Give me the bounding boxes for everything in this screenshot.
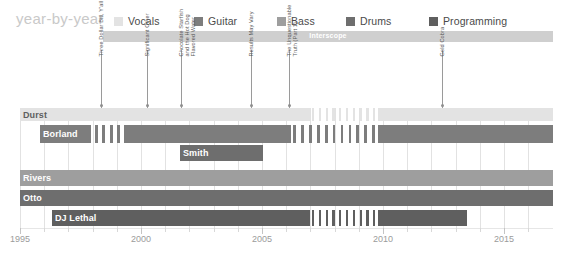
hiatus-stripe bbox=[332, 210, 334, 226]
timeline-segment bbox=[378, 108, 553, 121]
legend-item-programming[interactable]: Programming bbox=[429, 11, 507, 25]
timeline-row-dj-lethal[interactable]: DJ Lethal bbox=[20, 210, 553, 226]
axis-tick-minor bbox=[407, 228, 408, 232]
axis-tick-minor bbox=[93, 228, 94, 232]
album-marker-dot-icon bbox=[250, 104, 253, 107]
album-label: Significant Other bbox=[143, 13, 149, 56]
legend-item-guitar[interactable]: Guitar bbox=[194, 11, 237, 25]
hiatus-stripe bbox=[332, 170, 334, 186]
hiatus-stripe bbox=[366, 108, 368, 121]
hiatus-stripe bbox=[293, 125, 296, 143]
record-label-text: Interscope bbox=[103, 32, 553, 39]
axis-tick-minor bbox=[117, 228, 118, 232]
legend-label: Programming bbox=[443, 15, 507, 27]
timeline-segment bbox=[378, 210, 467, 226]
axis-tick-minor bbox=[238, 228, 239, 232]
legend-swatch-icon bbox=[346, 17, 355, 26]
axis-tick-minor bbox=[480, 228, 481, 232]
hiatus-stripe bbox=[366, 190, 368, 206]
timeline-row-durst[interactable]: Durst bbox=[20, 108, 553, 121]
hiatus-stripe bbox=[346, 210, 348, 226]
timeline-segment bbox=[124, 125, 291, 143]
hiatus-stripe bbox=[360, 108, 362, 121]
timeline-segment bbox=[20, 108, 310, 121]
timeline-row-otto[interactable]: Otto bbox=[20, 190, 553, 206]
plot-area: DurstBorlandSmithRiversOttoDJ Lethal bbox=[20, 108, 553, 228]
hiatus-stripe bbox=[319, 190, 321, 206]
member-name-label: Smith bbox=[183, 148, 209, 158]
axis-tick-minor bbox=[68, 228, 69, 232]
timeline-row-rivers[interactable]: Rivers bbox=[20, 170, 553, 186]
hiatus-stripe bbox=[312, 210, 314, 226]
album-label: Chocolate Starfish bbox=[177, 9, 183, 57]
legend-swatch-icon bbox=[429, 17, 438, 26]
hiatus-stripe bbox=[353, 210, 355, 226]
axis-tick-minor bbox=[310, 228, 311, 232]
hiatus-stripe bbox=[360, 210, 362, 226]
legend-swatch-icon bbox=[114, 17, 123, 26]
legend-label: Drums bbox=[360, 15, 391, 27]
hiatus-stripe bbox=[339, 108, 341, 121]
axis-tick-minor bbox=[528, 228, 529, 232]
album-marker-dot-icon bbox=[180, 104, 183, 107]
hiatus-stripes bbox=[310, 210, 378, 226]
year-by-year-timeline-chart: year-by-year VocalsGuitarBassDrumsProgra… bbox=[0, 0, 561, 254]
hiatus-stripe bbox=[326, 190, 328, 206]
hiatus-stripe bbox=[332, 108, 334, 121]
axis-year-label: 2015 bbox=[494, 234, 514, 244]
hiatus-stripe bbox=[301, 125, 304, 143]
hiatus-stripe bbox=[356, 125, 359, 143]
album-marker-line bbox=[251, 50, 252, 108]
hiatus-stripe bbox=[341, 125, 344, 143]
hiatus-stripe bbox=[309, 125, 312, 143]
x-axis: 19952000200520102015 bbox=[20, 228, 553, 254]
hiatus-stripes bbox=[310, 108, 378, 121]
axis-tick-minor bbox=[335, 228, 336, 232]
timeline-segment bbox=[20, 170, 310, 186]
hiatus-stripe bbox=[372, 125, 375, 143]
legend-item-drums[interactable]: Drums bbox=[346, 11, 391, 25]
hiatus-stripe bbox=[319, 108, 321, 121]
timeline-row-borland[interactable]: Borland bbox=[20, 125, 553, 143]
album-marker-dot-icon bbox=[146, 104, 149, 107]
hiatus-stripe bbox=[373, 170, 375, 186]
album-label: Results May Vary bbox=[247, 11, 253, 56]
axis-tick-minor bbox=[431, 228, 432, 232]
hiatus-stripe bbox=[312, 190, 314, 206]
axis-year-label: 1995 bbox=[10, 234, 30, 244]
timeline-segment bbox=[102, 125, 105, 143]
hiatus-stripe bbox=[360, 190, 362, 206]
record-label-band: Interscope bbox=[103, 31, 553, 42]
member-name-label: DJ Lethal bbox=[55, 213, 96, 223]
timeline-segment bbox=[110, 125, 113, 143]
hiatus-stripe bbox=[346, 190, 348, 206]
album-label: The Unquestionable bbox=[285, 5, 291, 57]
axis-year-label: 2010 bbox=[373, 234, 393, 244]
timeline-segment bbox=[95, 125, 98, 143]
timeline-segment bbox=[117, 125, 120, 143]
hiatus-stripe bbox=[326, 210, 328, 226]
hiatus-stripe bbox=[319, 170, 321, 186]
album-marker-line bbox=[289, 50, 290, 108]
hiatus-stripe bbox=[333, 125, 336, 143]
axis-tick-minor bbox=[456, 228, 457, 232]
hiatus-stripe bbox=[373, 190, 375, 206]
hiatus-stripes bbox=[291, 125, 378, 143]
axis-tick-minor bbox=[44, 228, 45, 232]
axis-tick-minor bbox=[189, 228, 190, 232]
member-name-label: Rivers bbox=[23, 173, 51, 183]
axis-tick-minor bbox=[165, 228, 166, 232]
hiatus-stripe bbox=[373, 108, 375, 121]
hiatus-stripes bbox=[310, 170, 378, 186]
hiatus-stripe bbox=[364, 125, 367, 143]
album-marker-line bbox=[101, 50, 102, 108]
album-marker-line bbox=[442, 50, 443, 108]
album-marker-dot-icon bbox=[100, 104, 103, 107]
hiatus-stripe bbox=[346, 170, 348, 186]
album-marker-dot-icon bbox=[288, 104, 291, 107]
timeline-row-smith[interactable]: Smith bbox=[20, 145, 553, 161]
hiatus-stripe bbox=[353, 170, 355, 186]
hiatus-stripe bbox=[366, 210, 368, 226]
member-name-label: Otto bbox=[23, 193, 42, 203]
legend-item-vocals[interactable]: Vocals bbox=[114, 11, 160, 25]
